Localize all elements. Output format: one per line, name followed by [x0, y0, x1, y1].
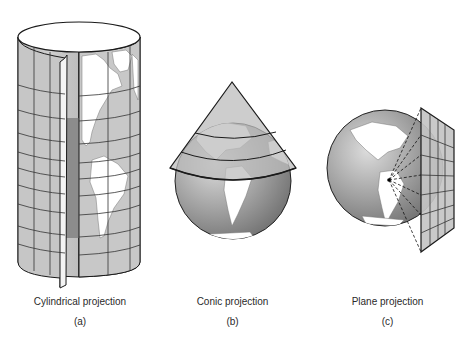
caption-plane-letter: (c)	[310, 316, 465, 327]
caption-plane-title: Plane projection	[310, 296, 465, 307]
plane-projection-diagram	[327, 108, 454, 252]
map-projection-figure	[0, 0, 467, 341]
caption-cylindrical-title: Cylindrical projection	[5, 296, 155, 307]
cone	[170, 82, 296, 180]
caption-conic-letter: (b)	[160, 316, 305, 327]
cylinder-top	[18, 22, 140, 52]
caption-conic-title: Conic projection	[160, 296, 305, 307]
caption-cylindrical-letter: (a)	[5, 316, 155, 327]
cylindrical-projection-diagram	[18, 22, 140, 288]
conic-projection-diagram	[170, 82, 300, 242]
projection-point	[387, 178, 391, 182]
